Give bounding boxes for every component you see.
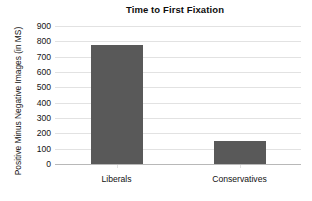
y-axis-tick-label: 500 [5,83,51,92]
x-axis-tick [240,165,241,168]
y-axis-tick-label: 300 [5,114,51,123]
bar [214,141,266,164]
y-axis-tick-label: 900 [5,22,51,31]
plot-area: 9008007006005004003002001000 [55,26,301,164]
grid-line [55,41,301,42]
clipped-caption-fragment [2,195,302,201]
chart-container: Time to First Fixation Positive Minus Ne… [0,0,312,201]
y-axis-tick-label: 200 [5,129,51,138]
grid-line [55,26,301,27]
x-axis-tick [117,165,118,168]
chart-title: Time to First Fixation [46,4,304,15]
y-axis-tick-label: 400 [5,98,51,107]
y-axis-tick-label: 600 [5,68,51,77]
y-axis-tick-label: 700 [5,52,51,61]
x-axis-category-label: Liberals [55,174,178,184]
bar [91,45,143,164]
x-axis-category-label: Conservatives [178,174,301,184]
y-axis-tick-label: 0 [5,160,51,169]
y-axis-tick-label: 100 [5,144,51,153]
y-axis-tick-label: 800 [5,37,51,46]
x-axis-line [55,164,301,165]
